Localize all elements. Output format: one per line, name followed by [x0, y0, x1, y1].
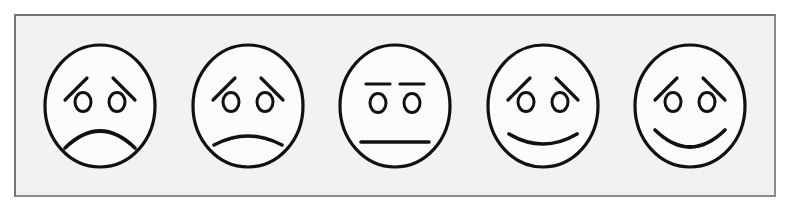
rating-option-5[interactable]: Very happy: [622, 41, 758, 171]
left-eye: [75, 92, 91, 111]
rating-option-3[interactable]: Neutral: [327, 41, 463, 171]
face-outline: [45, 45, 155, 167]
scale-face-row: Very unhappy Unhappy: [16, 16, 774, 195]
rating-option-4[interactable]: Happy: [475, 41, 611, 171]
right-eye: [257, 92, 273, 111]
left-eye: [370, 93, 386, 112]
left-eye: [223, 92, 239, 111]
smiley-face-rating-scale: Very unhappy Unhappy: [0, 0, 791, 212]
face-neutral-icon: [335, 42, 455, 170]
left-eye: [665, 92, 681, 111]
face-very-happy-icon: [630, 42, 750, 170]
face-outline: [193, 45, 303, 167]
right-eye: [699, 92, 715, 111]
right-eye: [109, 92, 125, 111]
left-eye: [518, 92, 534, 111]
rating-option-1[interactable]: Very unhappy: [32, 41, 168, 171]
right-eye: [404, 93, 420, 112]
face-happy-icon: [483, 42, 603, 170]
face-sad-icon: [188, 42, 308, 170]
rating-option-2[interactable]: Unhappy: [180, 41, 316, 171]
face-very-sad-icon: [40, 42, 160, 170]
scale-panel: Very unhappy Unhappy: [14, 14, 776, 197]
face-outline: [340, 45, 450, 167]
face-outline: [488, 45, 598, 167]
right-eye: [552, 92, 568, 111]
